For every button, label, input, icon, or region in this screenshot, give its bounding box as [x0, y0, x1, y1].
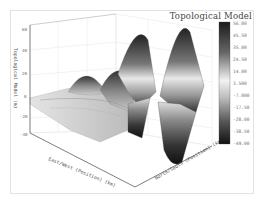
z-tick: -40	[20, 132, 28, 137]
colorbar-label: 45.50	[233, 33, 247, 38]
colorbar-label: -49.00	[233, 141, 250, 146]
colorbar-label: 24.50	[233, 57, 247, 62]
colorbar-label: 3.500	[233, 81, 247, 86]
colorbar-label: -28.00	[233, 117, 250, 122]
z-tick: 0	[24, 94, 27, 99]
colorbar-label: -38.50	[233, 129, 250, 134]
colorbar-label: 35.00	[233, 45, 247, 50]
chart-title: Topological Model	[170, 11, 252, 21]
z-tick: 40	[22, 48, 28, 53]
z-tick: 60	[22, 27, 28, 32]
surface	[30, 28, 204, 164]
colorbar-label: 56.00	[233, 21, 247, 26]
z-tick: 20	[22, 71, 28, 76]
colorbar-label: -17.50	[233, 105, 250, 110]
colorbar-label: 14.00	[233, 69, 247, 74]
z-axis-title: Topological Model (m)	[12, 48, 18, 109]
x-axis: East/West (Position) (km)	[30, 133, 135, 188]
z-tick: -20	[20, 114, 28, 119]
colorbar-label: -7.000	[233, 93, 250, 98]
caption	[64, 201, 204, 207]
colorbar: 56.00 45.50 35.00 24.50 14.00 3.500 -7.0…	[219, 21, 250, 146]
surface-plot: 60 40 20 0 -20 -40 Topological Model (m)…	[0, 0, 264, 211]
